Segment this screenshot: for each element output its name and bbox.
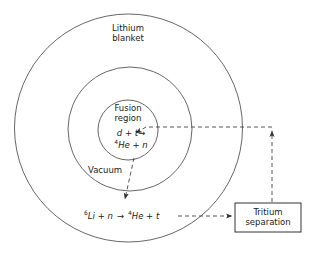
fusion-reaction-equation: d + t→ 4He + n xyxy=(114,129,147,150)
fusion-products: He + n xyxy=(118,140,148,150)
neutron-flow-arrow xyxy=(125,158,134,199)
fusion-region-label-line2: region xyxy=(114,114,141,124)
fusion-region-label: Fusion region xyxy=(114,104,141,124)
fusion-reaction-products-line: 4He + n xyxy=(114,139,147,151)
breeding-reactants: Li + n xyxy=(88,211,113,221)
fusion-reactor-diagram: Lithium blanket Fusion region d + t→ 4He… xyxy=(0,0,316,255)
fusion-reactants: d + t xyxy=(117,128,138,138)
lithium-blanket-label: Lithium blanket xyxy=(112,24,144,44)
tritium-separation-label-line2: separation xyxy=(245,218,290,228)
fusion-reaction-arrow-icon: → xyxy=(138,128,145,138)
breeding-reaction-equation: 6Li + n→4He + t xyxy=(84,210,159,222)
tritium-separation-label[interactable]: Tritium separation xyxy=(245,208,290,228)
breeding-reaction-arrow-icon: → xyxy=(113,211,128,221)
tritium-return-arrow xyxy=(136,127,272,133)
lithium-blanket-label-line2: blanket xyxy=(112,34,144,44)
vacuum-label: Vacuum xyxy=(88,166,122,176)
breeding-products: He + t xyxy=(132,211,159,221)
fusion-reaction-reactants-line: d + t→ xyxy=(114,129,147,139)
